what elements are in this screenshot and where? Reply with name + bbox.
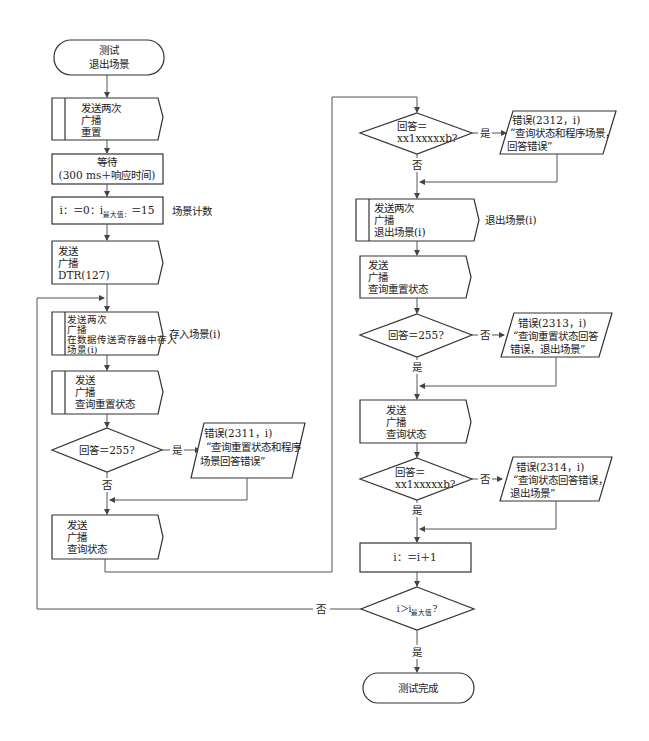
store-scene-box: 发送两次 广播 在数据传送寄存器中存入 场景(i)	[52, 312, 177, 355]
decision-5-no-label: 否	[316, 603, 327, 615]
decision-reply-bitmask-1: 回答＝ xx1xxxxxb?	[360, 113, 472, 154]
end-terminator: 测试完成	[363, 673, 474, 703]
error-2314-line-3: 退出场景”	[510, 487, 555, 499]
increment-text: i：＝i＋1	[393, 551, 436, 563]
send-reset-line-1: 发送两次	[81, 102, 122, 114]
query-reset-box-1: 发送 广播 查询重置状态	[52, 371, 163, 414]
wait-box: 等待 (300 ms＋响应时间)	[52, 154, 163, 184]
store-scene-note: 存入场景(i)	[169, 328, 221, 340]
query-status-1-line-2: 广播	[67, 531, 88, 543]
query-reset-1-line-3: 查询重置状态	[75, 398, 136, 410]
decision-reply-255-2: 回答＝255?	[360, 314, 472, 357]
error-2312-box: 错误(2312，i) “查询状态和程序场景， 回答错误”	[500, 111, 616, 154]
error-2311-box: 错误(2311，i) “查询重置状态和程序 场景回答错误”	[191, 423, 305, 478]
send-dtr-line-2: 广播	[58, 257, 79, 269]
error-2313-line-1: 错误(2313，i)	[518, 317, 586, 329]
query-status-1-line-1: 发送	[67, 519, 88, 531]
query-reset-1-line-2: 广播	[75, 386, 96, 398]
decision-2-line-2: xx1xxxxxb?	[397, 132, 458, 144]
error-2313-line-3: 错误，退出场景”	[510, 343, 585, 355]
exit-scene-box: 发送两次 广播 退出场景(i)	[356, 199, 479, 241]
decision-5-yes-label: 是	[412, 646, 423, 658]
init-counter-box: i：＝0：i最大值：＝15	[52, 197, 163, 224]
decision-4-line-1: 回答＝	[395, 466, 425, 478]
decision-2-yes-label: 是	[480, 127, 491, 139]
send-reset-line-2: 广播	[81, 114, 102, 126]
flowchart-canvas: 测试 退出场景 发送两次 广播 重置 等待 (300 ms＋响应时间) i：＝0…	[0, 0, 649, 741]
decision-1-yes-label: 是	[172, 444, 183, 456]
error-2312-line-2: “查询状态和程序场景，	[510, 127, 615, 139]
start-line-1: 测试	[99, 44, 120, 56]
decision-loop-check: i＞i最大值?	[361, 587, 474, 630]
error-2313-box: 错误(2313，i) “查询重置状态回答 错误，退出场景”	[501, 313, 612, 357]
query-status-2-line-1: 发送	[386, 404, 407, 416]
start-terminator: 测试 退出场景	[54, 40, 164, 75]
error-2312-line-3: 回答错误”	[507, 140, 552, 152]
exit-scene-line-1: 发送两次	[374, 202, 415, 214]
query-reset-1-line-1: 发送	[75, 374, 96, 386]
store-scene-line-4: 场景(i)	[67, 344, 97, 355]
send-dtr-box: 发送 广播 DTR(127)	[52, 241, 163, 284]
decision-reply-bitmask-2: 回答＝ xx1xxxxxb?	[360, 458, 472, 500]
error-2311-line-2: “查询重置状态和程序	[206, 441, 301, 453]
error-2311-line-1: 错误(2311，i)	[204, 427, 272, 439]
wait-line-1: 等待	[97, 156, 118, 168]
exit-scene-line-3: 退出场景(i)	[374, 226, 426, 238]
exit-scene-note: 退出场景(i)	[485, 214, 537, 226]
increment-box: i：＝i＋1	[360, 543, 471, 572]
decision-3-yes-label: 是	[412, 361, 423, 373]
decision-4-yes-label: 是	[412, 504, 423, 516]
wait-line-2: (300 ms＋响应时间)	[59, 169, 156, 181]
send-dtr-line-1: 发送	[58, 245, 79, 257]
end-text: 测试完成	[398, 682, 439, 694]
send-reset-line-3: 重置	[81, 126, 101, 138]
query-status-box-2: 发送 广播 查询状态	[360, 400, 471, 443]
send-reset-box: 发送两次 广播 重置	[52, 98, 163, 140]
decision-1-no-label: 否	[102, 479, 113, 491]
start-line-2: 退出场景	[89, 58, 129, 70]
query-reset-2-line-2: 广播	[368, 271, 389, 283]
query-status-2-line-2: 广播	[386, 416, 407, 428]
query-reset-box-2: 发送 广播 查询重置状态	[360, 256, 471, 298]
error-2314-box: 错误(2314，i) “查询状态回答错误， 退出场景”	[500, 457, 612, 501]
query-status-box-1: 发送 广播 查询状态	[52, 515, 163, 559]
error-2312-line-1: 错误(2312，i)	[512, 114, 580, 126]
error-2314-line-2: “查询状态回答错误，	[513, 474, 608, 486]
query-reset-2-line-1: 发送	[368, 259, 389, 271]
send-dtr-line-3: DTR(127)	[58, 269, 110, 281]
decision-4-no-label: 否	[480, 473, 491, 485]
query-status-2-line-3: 查询状态	[386, 428, 427, 440]
decision-1-text: 回答＝255?	[79, 444, 135, 456]
exit-scene-line-2: 广播	[374, 214, 395, 226]
decision-2-no-label: 否	[412, 159, 423, 171]
error-2313-line-2: “查询重置状态回答	[513, 330, 599, 342]
decision-4-line-2: xx1xxxxxb?	[395, 478, 456, 490]
error-2311-line-3: 场景回答错误”	[200, 455, 265, 467]
error-2314-line-1: 错误(2314，i)	[516, 461, 584, 473]
decision-3-text: 回答＝255?	[388, 329, 444, 341]
query-status-1-line-3: 查询状态	[67, 543, 108, 555]
scene-count-note: 场景计数	[172, 205, 213, 217]
decision-reply-255-1: 回答＝255?	[52, 428, 162, 472]
decision-2-line-1: 回答＝	[397, 120, 427, 132]
decision-3-no-label: 否	[480, 329, 491, 341]
query-reset-2-line-3: 查询重置状态	[368, 283, 429, 295]
